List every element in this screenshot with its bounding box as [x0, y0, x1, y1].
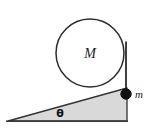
cylinder-mass-label: M	[83, 46, 97, 61]
hanging-mass-label: m	[135, 88, 143, 100]
diagram-canvas: M m θ	[0, 0, 155, 130]
incline-angle-label: θ	[56, 107, 64, 120]
hanging-mass-ball	[121, 89, 131, 99]
physics-diagram-figure: M m θ	[0, 0, 155, 130]
inclined-plane-wedge	[8, 88, 127, 121]
